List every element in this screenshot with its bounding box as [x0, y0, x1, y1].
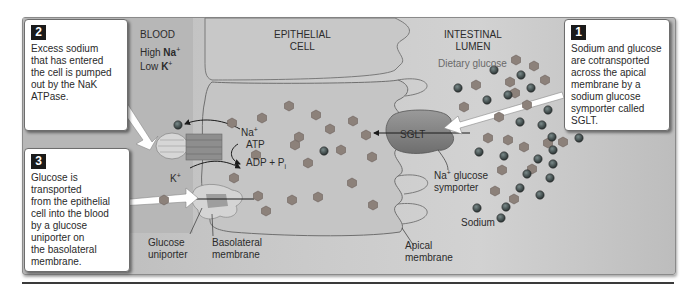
- k-ion-label: K+: [170, 170, 181, 185]
- intracellular-sodium: [320, 147, 328, 155]
- nak-atpase-pump: [156, 133, 222, 160]
- adp-pi-label: ADP + Pi: [246, 157, 286, 173]
- low-k-label: Low K+: [140, 58, 172, 73]
- callout-1-text: Sodium and glucose are cotransported acr…: [571, 43, 663, 127]
- callout-3: 3 Glucose is transported from the epithe…: [24, 148, 130, 272]
- callout-1-number: 1: [571, 25, 586, 40]
- na-glucose-symporter-label: Na+ glucose symporter: [434, 167, 488, 194]
- callout-2-text: Excess sodium that has entered the cell …: [31, 43, 121, 103]
- glucose-molecule: [160, 195, 169, 205]
- sglt-label: SGLT: [400, 129, 425, 141]
- callout-1: 1 Sodium and glucose are cotransported a…: [564, 19, 670, 131]
- blood-region-label: BLOOD: [140, 29, 175, 41]
- apical-membrane-label: Apical membrane: [405, 240, 453, 264]
- glucose-uniporter-label: Glucose uniporter: [148, 237, 187, 261]
- callout-3-text: Glucose is transported from the epitheli…: [31, 172, 123, 268]
- sodium-ion: [174, 121, 182, 129]
- intestinal-lumen-label: INTESTINAL LUMEN: [444, 29, 502, 53]
- bottom-divider: [22, 282, 674, 284]
- basolateral-membrane-label: Basolateral membrane: [212, 237, 262, 261]
- dietary-glucose-label: Dietary glucose: [438, 58, 507, 70]
- sodium-label: Sodium: [461, 217, 495, 229]
- callout-2-number: 2: [31, 25, 46, 40]
- atp-label: ATP: [246, 139, 265, 151]
- na-ion-label: Na+: [241, 124, 258, 139]
- callout-3-number: 3: [31, 154, 46, 169]
- callout-2: 2 Excess sodium that has entered the cel…: [24, 19, 128, 131]
- epithelial-cell-label: EPITHELIAL CELL: [274, 29, 331, 53]
